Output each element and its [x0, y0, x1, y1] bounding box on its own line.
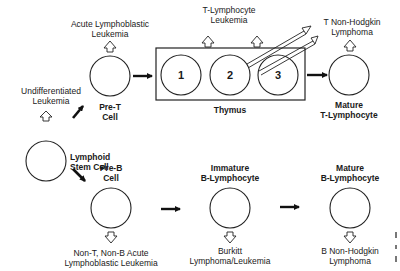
node-immature-b-lymphocyte: Immature B-Lymphocyte Burkitt Lymphoma/L…: [190, 163, 271, 266]
pre-t-disease-label-1: Acute Lymphoblastic: [71, 19, 150, 29]
stem-disease-label-2: Leukemia: [33, 96, 70, 106]
thymus-disease-label-1: T-Lymphocyte: [202, 5, 255, 15]
pre-t-label-2: Cell: [102, 112, 118, 122]
immature-b-disease-label-2: Lymphoma/Leukemia: [190, 256, 271, 266]
pre-b-label-1: Pre-B: [100, 163, 123, 173]
thymus-label: Thymus: [214, 105, 247, 115]
mature-t-disease-hollow-arrow-icon: [344, 40, 356, 51]
margin-mark-2: [395, 245, 397, 249]
node-thymus: 1 2 3 Thymus T-Lymphocyte Leukemia: [156, 5, 318, 115]
thymus-disease-label-2: Leukemia: [211, 15, 248, 25]
pre-t-label-1: Pre-T: [99, 102, 122, 112]
immature-b-label-1: Immature: [211, 163, 250, 173]
immature-b-disease-label-1: Burkitt: [218, 246, 243, 256]
cropped-margin-marks: [395, 232, 397, 262]
thymus-stage-1-number: 1: [178, 69, 184, 81]
mature-t-disease-label-1: T Non-Hodgkin: [323, 17, 380, 27]
node-mature-b-lymphocyte: Mature B-Lymphocyte B Non-Hodgkin Lympho…: [321, 163, 380, 266]
mature-b-disease-hollow-arrow-icon: [344, 232, 356, 243]
stem-disease-hollow-arrow-icon: [40, 111, 52, 121]
mature-b-label-2: B-Lymphocyte: [321, 173, 380, 183]
thymus-stage-2-number: 2: [227, 69, 233, 81]
pre-b-circle: [91, 188, 131, 228]
mature-b-circle: [330, 188, 370, 228]
mature-b-label-1: Mature: [336, 163, 364, 173]
immature-b-disease-hollow-arrow-icon: [224, 232, 236, 243]
pre-t-disease-hollow-arrow-icon: [104, 41, 116, 52]
mature-b-disease-label-1: B Non-Hodgkin: [321, 246, 379, 256]
mature-b-disease-label-2: Lymphoma: [329, 256, 371, 266]
lymphocyte-diagram: Lymphoid Stem Cell Undifferentiated Leuk…: [0, 0, 400, 271]
immature-b-circle: [210, 188, 250, 228]
mature-t-disease-label-2: Lymphoma: [331, 27, 373, 37]
mature-t-label-2: T-Lymphocyte: [320, 110, 378, 120]
pre-t-circle: [90, 56, 130, 96]
mature-t-circle: [329, 55, 369, 95]
node-pre-b-cell: Pre-B Cell Non-T, Non-B Acute Lymphoblas…: [64, 163, 158, 268]
thymus-disease-hollow-arrow-2-icon: [251, 36, 263, 47]
pre-b-disease-label-2: Lymphoblastic Leukemia: [64, 258, 158, 268]
arrow-stem-to-pre-t-icon: [73, 106, 83, 118]
pre-b-label-2: Cell: [103, 173, 119, 183]
pre-b-disease-hollow-arrow-icon: [105, 232, 117, 243]
node-mature-t-lymphocyte: Mature T-Lymphocyte T Non-Hodgkin Lympho…: [320, 17, 380, 120]
thymus-stage-3-number: 3: [275, 69, 281, 81]
immature-b-label-2: B-Lymphocyte: [201, 173, 260, 183]
stem-disease-label-1: Undifferentiated: [21, 86, 81, 96]
pre-b-disease-label-1: Non-T, Non-B Acute: [73, 248, 148, 258]
margin-mark-1: [395, 232, 397, 238]
pre-t-disease-label-2: Leukemia: [92, 29, 129, 39]
margin-mark-3: [395, 256, 397, 262]
stem-cell-label-1: Lymphoid: [70, 152, 110, 162]
mature-t-label-1: Mature: [335, 100, 363, 110]
thymus-disease-hollow-arrow-1-icon: [202, 36, 214, 47]
node-lymphoid-stem-cell: Lymphoid Stem Cell Undifferentiated Leuk…: [21, 86, 110, 181]
stem-cell-circle: [26, 141, 66, 181]
